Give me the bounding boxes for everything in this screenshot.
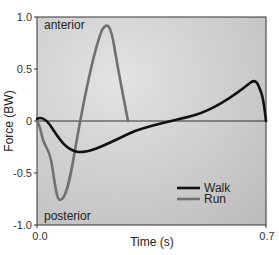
y-tick-label: 0 bbox=[26, 115, 32, 127]
y-tick-label: -1.0 bbox=[13, 219, 32, 231]
y-tick-label: 1.0 bbox=[17, 11, 32, 23]
chart: 1.0 0.5 0 -0.5 -1.0 0.0 0.7 Time (s) For… bbox=[0, 0, 279, 255]
x-axis-label: Time (s) bbox=[130, 235, 174, 249]
x-tick-label: 0.7 bbox=[259, 230, 274, 242]
legend-run-label: Run bbox=[204, 192, 226, 206]
y-axis-label: Force (BW) bbox=[2, 90, 16, 151]
y-axis: 1.0 0.5 0 -0.5 -1.0 bbox=[13, 11, 37, 231]
posterior-annotation: posterior bbox=[44, 209, 91, 223]
anterior-annotation: anterior bbox=[44, 18, 85, 32]
x-tick-label: 0.0 bbox=[32, 230, 47, 242]
y-tick-label: -0.5 bbox=[13, 167, 32, 179]
y-tick-label: 0.5 bbox=[17, 63, 32, 75]
